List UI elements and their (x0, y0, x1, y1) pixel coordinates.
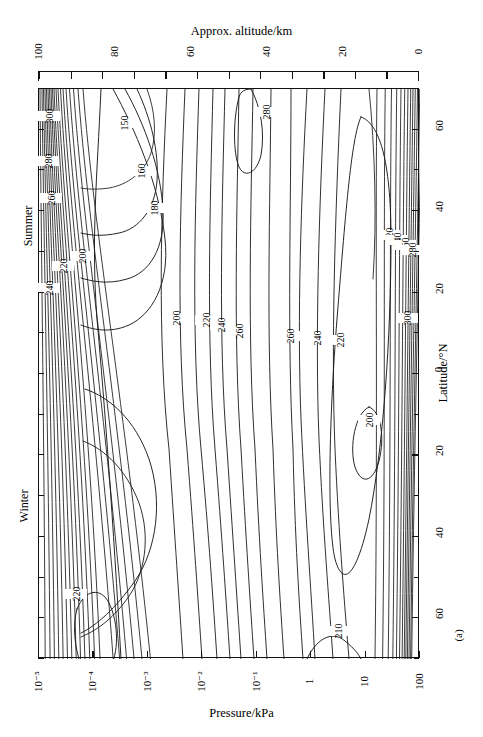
right-tick-label: 60 (429, 120, 449, 131)
contour-label: 300 (38, 111, 60, 121)
contour-label: 240 (306, 333, 328, 343)
right-minor-tick (414, 129, 419, 130)
right-tick-label: 60 (429, 608, 449, 619)
right-minor-tick (414, 658, 419, 659)
panel-label: (a) (453, 629, 464, 641)
contour-line (66, 89, 120, 659)
bottom-tick-mark (147, 651, 148, 658)
contour-plot-area (38, 88, 419, 658)
contour-line (63, 89, 113, 659)
bottom-tick-mark (256, 651, 257, 658)
right-minor-tick (414, 454, 419, 455)
bottom-tick-mark (310, 651, 311, 658)
right-minor-tick (414, 292, 419, 293)
contour-label: 200 (358, 415, 380, 425)
bottom-axis-title: Pressure/kPa (0, 706, 483, 721)
contour-line (250, 89, 267, 659)
contour-label: 280 (401, 245, 423, 255)
left-minor-tick (38, 658, 44, 659)
contour-line (393, 89, 397, 659)
left-minor-tick (38, 251, 44, 252)
top-axis-title: Approx. altitude/km (0, 24, 483, 39)
contour-label: 260 (228, 326, 250, 336)
bottom-tick-mark (38, 651, 39, 658)
bottom-tick-mark (365, 651, 366, 658)
left-minor-tick (38, 495, 44, 496)
contour-line (290, 89, 303, 659)
left-minor-tick (38, 169, 44, 170)
right-minor-tick (414, 169, 419, 170)
contour-line (388, 89, 391, 659)
contour-line (369, 89, 375, 279)
contour-line (383, 89, 386, 659)
contour-line (317, 89, 333, 659)
right-tick-label: 40 (429, 201, 449, 212)
left-minor-tick (38, 617, 44, 618)
bottom-tick-label: 10 (349, 676, 381, 687)
contour-line (269, 89, 284, 659)
right-minor-tick (414, 617, 419, 618)
right-minor-tick (414, 332, 419, 333)
bottom-tick-mark (92, 651, 93, 658)
bottom-tick-mark (201, 651, 202, 658)
contour-line (333, 89, 349, 659)
contour-line (161, 89, 183, 659)
bottom-tick-label: 10⁻³ (131, 676, 163, 687)
top-tick-label: 60 (176, 46, 204, 57)
right-minor-tick (414, 414, 419, 415)
contour-line (209, 89, 230, 659)
contour-line (40, 89, 45, 659)
contour-lines (39, 89, 420, 659)
contour-label: 210 (327, 626, 349, 636)
right-axis-title: Latitude/°N (436, 343, 451, 402)
contour-label: 260 (279, 331, 301, 341)
right-minor-tick (414, 536, 419, 537)
season-label-winter: Winter (18, 490, 30, 523)
left-minor-tick (38, 414, 44, 415)
contour-line (61, 89, 101, 659)
top-tick-label: 20 (329, 46, 357, 57)
top-axis-ruler (38, 71, 419, 81)
top-tick-label: 80 (100, 46, 128, 57)
contour-label: 180 (143, 203, 165, 213)
right-tick-label: 20 (429, 283, 449, 294)
left-minor-tick (38, 332, 44, 333)
right-tick-label: 20 (429, 445, 449, 456)
contour-label: 280 (37, 156, 59, 166)
left-minor-tick (38, 536, 44, 537)
left-minor-tick (38, 129, 44, 130)
contour-label: 150 (113, 118, 135, 128)
bottom-tick-label: 10⁻⁵ (22, 676, 54, 687)
right-minor-tick (414, 495, 419, 496)
contour-label: 160 (130, 166, 152, 176)
top-tick-label: 0 (405, 46, 433, 57)
contour-label: 260 (40, 193, 62, 203)
right-minor-tick (414, 373, 419, 374)
contour-line (375, 89, 377, 659)
right-minor-tick (414, 210, 419, 211)
left-minor-tick (38, 577, 44, 578)
right-minor-tick (414, 251, 419, 252)
figure-panel: Approx. altitude/km 100806040200 10⁻⁵10⁻… (0, 0, 483, 737)
bottom-tick-label: 10⁻¹ (240, 676, 272, 687)
left-minor-tick (38, 373, 44, 374)
bottom-tick-label: 10⁻² (185, 676, 217, 687)
bottom-tick-mark (419, 651, 420, 658)
contour-line (81, 89, 157, 235)
left-minor-tick (38, 210, 44, 211)
contour-line (299, 89, 315, 659)
contour-line (195, 89, 217, 659)
bottom-tick-label: 10⁻⁴ (76, 676, 108, 687)
top-tick-label: 100 (24, 46, 52, 57)
contour-line (221, 89, 241, 659)
contour-label: 220 (329, 335, 351, 345)
contour-label: 280 (255, 107, 277, 117)
bottom-tick-label: 100 (403, 676, 435, 687)
contour-label: 200 (71, 251, 93, 261)
top-tick-label: 40 (253, 46, 281, 57)
left-minor-tick (38, 292, 44, 293)
bottom-tick-label: 1 (294, 676, 326, 687)
left-minor-tick (38, 454, 44, 455)
right-tick-label: 40 (429, 527, 449, 538)
right-minor-tick (414, 88, 419, 89)
